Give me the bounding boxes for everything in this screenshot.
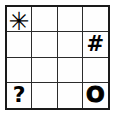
grid-cell-r1c4 [83, 7, 108, 32]
grid-cell-r3c4 [83, 58, 108, 83]
grid-cell-r1c3 [58, 7, 83, 32]
grid-cell-r1c1: ✳ [7, 7, 32, 32]
grid-cell-r4c2 [32, 83, 57, 108]
grid-cell-r4c3 [58, 83, 83, 108]
glyph-hash: # [87, 34, 105, 55]
grid-cell-r3c2 [32, 58, 57, 83]
grid-cell-r2c4: # [83, 32, 108, 57]
grid-cell-r2c2 [32, 32, 57, 57]
glyph-asterisk: ✳ [9, 9, 30, 33]
grid-cell-r2c1 [7, 32, 32, 57]
grid-cell-r4c1: ? [7, 83, 32, 108]
glyph-question: ? [13, 84, 26, 106]
grid-cell-r2c3 [58, 32, 83, 57]
grid-cell-r4c4: O [83, 83, 108, 108]
grid-cell-r1c2 [32, 7, 57, 32]
grid-cell-r3c1 [7, 58, 32, 83]
symbol-grid: ✳#?O [5, 5, 110, 110]
glyph-letter-o: O [86, 84, 105, 106]
grid-cell-r3c3 [58, 58, 83, 83]
